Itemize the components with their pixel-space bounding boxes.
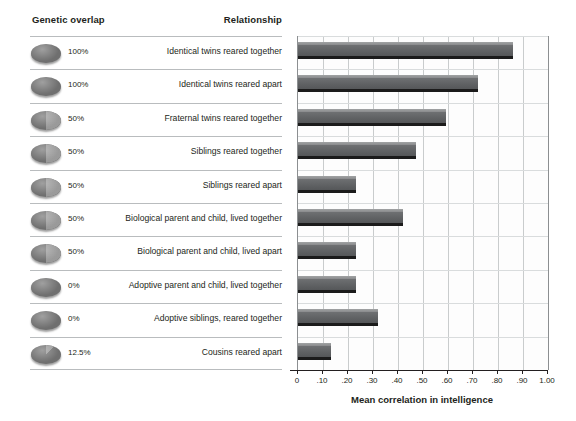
bar <box>298 42 513 56</box>
plot-row-separator <box>298 69 548 70</box>
relationship-label: Siblings reared together <box>191 146 282 156</box>
x-axis-label: Mean correlation in intelligence <box>297 394 547 405</box>
bar-highlight <box>298 209 403 212</box>
relationship-label: Cousins reared apart <box>202 347 282 357</box>
x-tick-mark <box>322 370 323 374</box>
x-tick-mark <box>522 370 523 374</box>
genetic-overlap-pie-icon <box>30 343 64 367</box>
relationship-label: Siblings reared apart <box>203 180 282 190</box>
bar <box>298 209 403 223</box>
bar <box>298 109 446 123</box>
relationship-label: Identical twins reared together <box>167 46 282 56</box>
bar-highlight <box>298 276 356 279</box>
x-tick-mark <box>497 370 498 374</box>
plot-row-separator <box>298 103 548 104</box>
x-tick-label: 0 <box>295 376 299 385</box>
genetic-overlap-pie-icon <box>30 209 64 233</box>
genetic-overlap-pie-icon <box>30 142 64 166</box>
genetic-overlap-percent: 50% <box>68 147 84 156</box>
plot-row-separator <box>298 236 548 237</box>
bar-highlight <box>298 75 478 78</box>
x-tick-mark <box>347 370 348 374</box>
genetic-overlap-percent: 0% <box>68 281 80 290</box>
bar-highlight <box>298 242 356 245</box>
genetic-overlap-percent: 100% <box>68 80 88 89</box>
table-row: 50%Fraternal twins reared together <box>30 103 282 136</box>
x-tick-label: .30 <box>366 376 377 385</box>
genetic-overlap-percent: 100% <box>68 47 88 56</box>
plot-row-separator <box>298 270 548 271</box>
bar <box>298 309 378 323</box>
genetic-overlap-pie-icon <box>30 176 64 200</box>
relationship-table: Genetic overlap Relationship 100%Identic… <box>0 0 290 421</box>
genetic-overlap-percent: 50% <box>68 181 84 190</box>
bar <box>298 276 356 290</box>
x-tick-label: .60 <box>441 376 452 385</box>
bar-highlight <box>298 309 378 312</box>
bar <box>298 142 416 156</box>
x-tick-label: .40 <box>391 376 402 385</box>
table-row: 50%Biological parent and child, lived to… <box>30 203 282 236</box>
x-tick-label: 1.00 <box>539 376 555 385</box>
x-tick-mark <box>547 370 548 374</box>
x-tick-mark <box>372 370 373 374</box>
table-row: 50%Siblings reared apart <box>30 170 282 203</box>
table-row: 0%Adoptive siblings, reared together <box>30 303 282 336</box>
x-tick-mark <box>422 370 423 374</box>
genetic-overlap-percent: 12.5% <box>68 348 91 357</box>
x-tick-label: .90 <box>516 376 527 385</box>
bar-highlight <box>298 42 513 45</box>
plot-row-separator <box>298 303 548 304</box>
plot-row-separator <box>298 170 548 171</box>
genetic-overlap-pie-icon <box>30 42 64 66</box>
genetic-overlap-percent: 0% <box>68 314 80 323</box>
relationship-label: Adoptive parent and child, lived togethe… <box>129 280 282 290</box>
bar <box>298 176 356 190</box>
x-tick-label: .80 <box>491 376 502 385</box>
x-tick-label: .10 <box>316 376 327 385</box>
relationship-label: Fraternal twins reared together <box>164 113 282 123</box>
x-tick-mark <box>472 370 473 374</box>
relationship-label: Biological parent and child, lived apart <box>137 246 282 256</box>
x-tick-mark <box>397 370 398 374</box>
bar <box>298 75 478 89</box>
genetic-overlap-percent: 50% <box>68 214 84 223</box>
x-tick-label: .70 <box>466 376 477 385</box>
x-tick-label: .50 <box>416 376 427 385</box>
bar <box>298 242 356 256</box>
table-row: 12.5%Cousins reared apart <box>30 337 282 370</box>
relationship-label: Adoptive siblings, reared together <box>154 313 282 323</box>
bar-highlight <box>298 343 331 346</box>
plot-row-separator <box>298 136 548 137</box>
bar-chart: 0.10.20.30.40.50.60.70.80.901.00 Mean co… <box>290 0 576 421</box>
x-tick-mark <box>447 370 448 374</box>
genetic-overlap-pie-icon <box>30 109 64 133</box>
column-header-genetic-overlap: Genetic overlap <box>32 14 105 25</box>
figure-root: Genetic overlap Relationship 100%Identic… <box>0 0 576 421</box>
genetic-overlap-percent: 50% <box>68 247 84 256</box>
axis-left-stub <box>290 370 297 371</box>
genetic-overlap-pie-icon <box>30 75 64 99</box>
bar <box>298 343 331 357</box>
genetic-overlap-percent: 50% <box>68 114 84 123</box>
relationship-label: Identical twins reared apart <box>179 79 282 89</box>
table-row: 100%Identical twins reared together <box>30 36 282 69</box>
plot-row-separator <box>298 337 548 338</box>
bar-highlight <box>298 142 416 145</box>
genetic-overlap-pie-icon <box>30 242 64 266</box>
x-tick-mark <box>297 370 298 374</box>
table-column-headers: Genetic overlap Relationship <box>0 14 290 34</box>
plot-row-separator <box>298 203 548 204</box>
genetic-overlap-pie-icon <box>30 276 64 300</box>
plot-area <box>297 36 549 370</box>
bar-highlight <box>298 176 356 179</box>
plot-row-separator <box>298 36 548 37</box>
table-body: 100%Identical twins reared together100%I… <box>30 36 282 370</box>
table-row: 100%Identical twins reared apart <box>30 69 282 102</box>
genetic-overlap-pie-icon <box>30 309 64 333</box>
column-header-relationship: Relationship <box>224 14 282 25</box>
table-row: 0%Adoptive parent and child, lived toget… <box>30 270 282 303</box>
table-row: 50%Siblings reared together <box>30 136 282 169</box>
bar-highlight <box>298 109 446 112</box>
x-tick-label: .20 <box>341 376 352 385</box>
